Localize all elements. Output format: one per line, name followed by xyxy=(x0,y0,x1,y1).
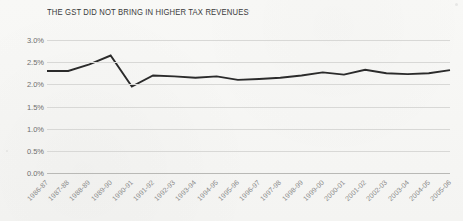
y-axis-tick-label: 0.0% xyxy=(2,169,44,178)
y-axis-tick-label: 2.5% xyxy=(2,58,44,67)
x-axis-tick-label: 1994-95 xyxy=(195,179,218,202)
gridline xyxy=(47,107,450,108)
x-axis-tick-label: 1991-92 xyxy=(132,179,155,202)
gridline xyxy=(47,62,450,63)
gridline xyxy=(47,40,450,41)
x-axis-tick-label: 2004-05 xyxy=(408,179,431,202)
gridline xyxy=(47,129,450,130)
x-axis-tick-label: 1987-88 xyxy=(47,179,70,202)
x-axis-tick-label: 1995-96 xyxy=(217,179,240,202)
paper-speck xyxy=(455,3,458,6)
gridline xyxy=(47,151,450,152)
y-axis-tick-label: 0.5% xyxy=(2,146,44,155)
chart-title: THE GST DID NOT BRING IN HIGHER TAX REVE… xyxy=(47,7,249,17)
y-axis-tick-label: 3.0% xyxy=(2,36,44,45)
x-axis-labels: 1986-871987-881988-891989-901990-911991-… xyxy=(47,176,457,221)
gridline xyxy=(47,84,450,85)
chart-figure: THE GST DID NOT BRING IN HIGHER TAX REVE… xyxy=(0,0,463,221)
x-axis-tick-label: 1993-94 xyxy=(174,179,197,202)
y-axis-tick-label: 1.5% xyxy=(2,102,44,111)
plot-area xyxy=(47,40,450,173)
x-axis-tick-label: 1992-93 xyxy=(153,179,176,202)
x-axis-tick-label: 1999-00 xyxy=(302,179,325,202)
x-axis-tick-label: 2000-01 xyxy=(323,179,346,202)
y-axis-tick-label: 2.0% xyxy=(2,80,44,89)
x-axis-tick-label: 1998-99 xyxy=(280,179,303,202)
x-axis-tick-label: 1990-91 xyxy=(111,179,134,202)
x-axis-tick-label: 1986-87 xyxy=(26,179,49,202)
x-axis-tick-label: 1997-98 xyxy=(259,179,282,202)
x-axis-tick-label: 2001-02 xyxy=(344,179,367,202)
x-axis-tick-label: 1996-97 xyxy=(238,179,261,202)
x-axis-tick-label: 1988-89 xyxy=(68,179,91,202)
x-axis-tick-label: 2002-03 xyxy=(365,179,388,202)
y-axis-tick-label: 1.0% xyxy=(2,124,44,133)
x-axis-tick-label: 2003-04 xyxy=(386,179,409,202)
y-axis-labels: 3.0%2.5%2.0%1.5%1.0%0.5%0.0% xyxy=(0,40,44,173)
x-axis-tick-label: 2005-06 xyxy=(429,179,452,202)
gridline xyxy=(47,173,450,174)
x-axis-tick-label: 1989-90 xyxy=(89,179,112,202)
